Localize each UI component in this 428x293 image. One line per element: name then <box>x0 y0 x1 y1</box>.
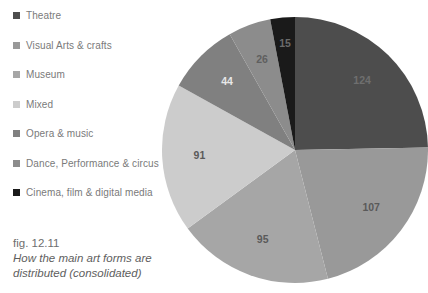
figure-caption-text: How the main art forms are distributed (… <box>13 251 173 281</box>
legend-item[interactable]: Theatre <box>13 9 165 22</box>
figure-number: fig. 12.11 <box>13 236 173 251</box>
legend-item-label: Theatre <box>26 9 61 22</box>
legend-swatch-icon <box>13 160 20 167</box>
pie-slice-value-label: 91 <box>194 149 206 161</box>
pie-chart-svg: 1241079591442615 <box>162 17 428 283</box>
legend-swatch-icon <box>13 130 20 137</box>
pie-slice-value-label: 44 <box>221 75 233 87</box>
pie-slice-value-label: 107 <box>362 201 380 213</box>
legend-item[interactable]: Mixed <box>13 98 165 111</box>
pie-slice-value-label: 124 <box>353 74 371 86</box>
legend-swatch-icon <box>13 189 20 196</box>
pie-slice-value-label: 26 <box>256 53 268 65</box>
legend-item[interactable]: Museum <box>13 68 165 81</box>
legend-item-label: Mixed <box>26 98 53 111</box>
legend-item[interactable]: Visual Arts & crafts <box>13 39 165 52</box>
legend-item[interactable]: Opera & music <box>13 127 165 140</box>
legend-item-label: Museum <box>26 68 65 81</box>
pie-slice-value-label: 95 <box>257 233 269 245</box>
legend-item-label: Dance, Performance & circus <box>26 157 159 170</box>
pie-chart: 1241079591442615 <box>162 17 428 283</box>
figure-caption: fig. 12.11 How the main art forms are di… <box>13 236 173 281</box>
legend-swatch-icon <box>13 42 20 49</box>
legend-item[interactable]: Cinema, film & digital media <box>13 186 165 199</box>
pie-slice-value-label: 15 <box>279 37 291 49</box>
legend-item[interactable]: Dance, Performance & circus <box>13 157 165 170</box>
legend-item-label: Cinema, film & digital media <box>26 186 153 199</box>
legend-swatch-icon <box>13 71 20 78</box>
legend-swatch-icon <box>13 12 20 19</box>
legend-item-label: Visual Arts & crafts <box>26 39 112 52</box>
legend-item-label: Opera & music <box>26 127 93 140</box>
legend-swatch-icon <box>13 101 20 108</box>
chart-legend: TheatreVisual Arts & craftsMuseumMixedOp… <box>13 9 165 216</box>
